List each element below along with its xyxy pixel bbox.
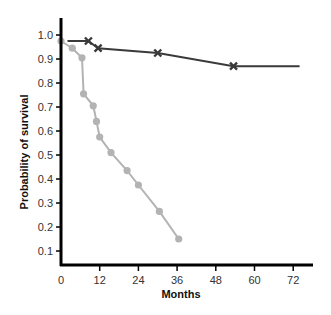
circle-marker: [175, 235, 182, 242]
series-layer: [57, 37, 299, 242]
survival-chart: 0.10.20.30.40.50.60.70.80.91.0 012243648…: [0, 0, 331, 315]
circle-marker: [96, 133, 103, 140]
circle-marker: [90, 102, 97, 109]
series-gray-circle: [57, 37, 182, 242]
x-tick-label: 0: [58, 274, 64, 286]
x-tick-label: 48: [210, 274, 222, 286]
y-tick-label: 0.6: [38, 125, 53, 137]
axes: [60, 18, 313, 266]
circle-marker: [124, 167, 131, 174]
y-tick-label: 0.7: [38, 101, 53, 113]
y-tick-label: 0.1: [38, 245, 53, 257]
x-axis-title: Months: [161, 288, 200, 300]
x-tick-label: 60: [248, 274, 260, 286]
circle-marker: [93, 118, 100, 125]
y-ticks: 0.10.20.30.40.50.60.70.80.91.0: [38, 29, 61, 257]
x-tick-label: 36: [171, 274, 183, 286]
y-tick-label: 0.4: [38, 173, 53, 185]
y-tick-label: 0.9: [38, 53, 53, 65]
y-tick-label: 0.2: [38, 221, 53, 233]
x-tick-label: 12: [94, 274, 106, 286]
circle-marker: [69, 45, 76, 52]
y-tick-label: 0.8: [38, 77, 53, 89]
x-tick-label: 72: [287, 274, 299, 286]
series-dark-x: [68, 38, 300, 70]
y-tick-label: 0.3: [38, 197, 53, 209]
circle-marker: [107, 149, 114, 156]
y-tick-label: 1.0: [38, 29, 53, 41]
circle-marker: [78, 54, 85, 61]
x-ticks: 0122436486072: [58, 265, 299, 286]
circle-marker: [135, 181, 142, 188]
series-line: [68, 41, 300, 66]
x-tick-label: 24: [132, 274, 144, 286]
y-axis-title: Probability of survival: [18, 95, 30, 210]
circle-marker: [156, 208, 163, 215]
y-tick-label: 0.5: [38, 149, 53, 161]
circle-marker: [80, 90, 87, 97]
